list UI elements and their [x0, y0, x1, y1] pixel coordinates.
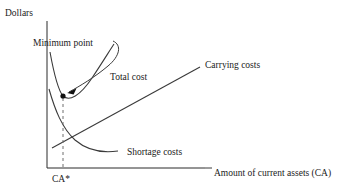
x-axis-label: Amount of current assets (CA)	[214, 168, 331, 179]
carrying-costs-label: Carrying costs	[205, 60, 260, 70]
minimum-point-label: Minimum point	[33, 38, 93, 48]
minimum-point-arrowhead	[67, 88, 76, 94]
total-cost-curve	[50, 44, 114, 98]
x-axis-tick-label-ca-star: CA*	[52, 174, 70, 184]
minimum-point-marker	[60, 93, 65, 98]
shortage-costs-curve	[49, 89, 118, 152]
figure-container: Dollars Amount of current assets (CA) Mi…	[0, 0, 340, 193]
shortage-costs-label: Shortage costs	[127, 147, 182, 157]
cost-curves-chart: Dollars Amount of current assets (CA) Mi…	[0, 0, 340, 193]
total-cost-label: Total cost	[110, 72, 147, 82]
y-axis-label: Dollars	[5, 8, 33, 18]
